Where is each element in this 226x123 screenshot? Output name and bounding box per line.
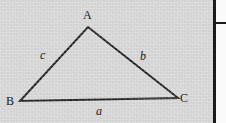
vertex-label-c: C [180, 92, 188, 104]
side-label-c: c [40, 49, 45, 61]
right-margin-panel [216, 0, 226, 123]
triangle-figure: A B C a b c [0, 0, 226, 123]
triangle-outline [20, 27, 178, 101]
vertical-rule [213, 0, 216, 123]
side-label-a: a [96, 105, 102, 117]
triangle-drawing [0, 0, 226, 123]
vertex-label-b: B [6, 95, 14, 107]
side-label-b: b [140, 50, 146, 62]
margin-tick-icon [216, 22, 226, 24]
vertex-label-a: A [83, 9, 92, 21]
